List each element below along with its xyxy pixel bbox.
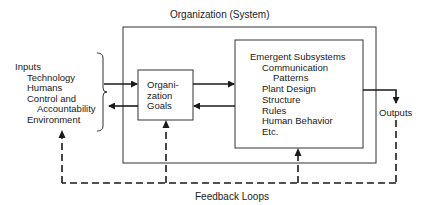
emergent-subsystems-list: Emergent Subsystems Communication Patter…	[250, 52, 346, 138]
inputs-brace	[97, 53, 107, 131]
feedback-goals-arrowhead	[163, 120, 170, 128]
inputs-heading: Inputs	[15, 62, 96, 73]
subsystem-item-etc: Etc.	[250, 127, 346, 138]
organization-goals-label: Organi- zation Goals	[147, 80, 179, 112]
input-item-environment: Environment	[15, 115, 96, 126]
goals-line-1: Organi-	[147, 80, 179, 91]
feedback-inputs-arrowhead	[59, 130, 66, 138]
feedback-subsystems-arrowhead	[295, 148, 302, 156]
system-title: Organization (System)	[170, 9, 269, 20]
subsystem-item-structure: Structure	[250, 95, 346, 106]
inputs-list: Inputs Technology Humans Control and Acc…	[15, 62, 96, 125]
goals-line-3: Goals	[147, 101, 179, 112]
outputs-label: Outputs	[379, 107, 412, 118]
feedback-loops-label: Feedback Loops	[195, 191, 269, 202]
feedback-loop-lines	[62, 120, 396, 183]
input-item-humans: Humans	[15, 83, 96, 94]
subsystems-to-outputs-arrow	[363, 90, 396, 103]
input-item-accountability: Accountability	[15, 104, 96, 115]
